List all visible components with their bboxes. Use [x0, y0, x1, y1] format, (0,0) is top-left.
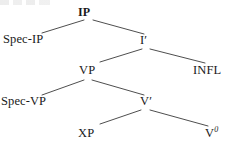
superscript-zero: 0 — [214, 125, 218, 134]
branch-v-bar-to-xp — [100, 110, 141, 124]
node-vp: VP — [79, 64, 95, 77]
branch-i-bar-to-infl — [150, 49, 205, 63]
node-infl: INFL — [193, 64, 221, 77]
branch-vp-to-v-bar — [92, 80, 144, 95]
node-spec-vp: Spec-VP — [1, 95, 46, 108]
branch-ip-to-spec-ip — [42, 20, 84, 33]
node-v-bar: V′ — [140, 95, 152, 108]
node-v-zero-letter: V — [205, 126, 214, 140]
node-xp: XP — [78, 127, 94, 140]
prime-mark-i: ′ — [144, 33, 147, 47]
node-ip: IP — [78, 6, 90, 18]
branch-i-bar-to-vp — [100, 49, 142, 62]
node-i-bar: I′ — [140, 34, 147, 47]
prime-mark-v: ′ — [149, 94, 152, 108]
syntax-tree-diagram: IP Spec-IP I′ VP INFL Spec-VP V′ XP V0 — [0, 0, 232, 150]
branch-ip-to-i-bar — [93, 20, 144, 34]
branch-v-bar-to-v-zero — [150, 110, 208, 126]
branch-vp-to-spec-vp — [42, 80, 84, 95]
node-v-zero: V0 — [205, 127, 218, 140]
node-v-bar-letter: V — [140, 94, 149, 108]
node-spec-ip: Spec-IP — [3, 33, 43, 46]
